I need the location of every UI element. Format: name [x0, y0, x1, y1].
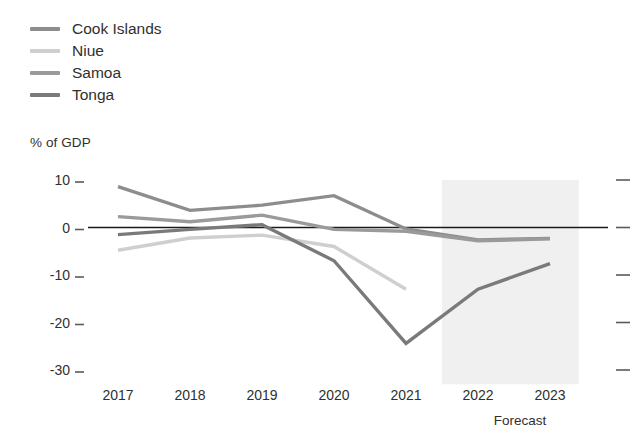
forecast-axis-label: Forecast: [494, 413, 547, 428]
y-tick-label: 10: [54, 172, 70, 188]
y-tick-label: -30: [50, 362, 70, 378]
x-tick-label: 2017: [102, 387, 133, 403]
x-axis-labels: 2017201820192020202120222023: [102, 387, 565, 403]
series-line-niue: [118, 235, 406, 289]
y-axis-ticks: 100-10-20-30: [50, 172, 84, 378]
y-tick-label: -10: [50, 267, 70, 283]
x-tick-label: 2022: [462, 387, 493, 403]
x-tick-label: 2023: [534, 387, 565, 403]
plot-area: 100-10-20-30 201720182019202020212022202…: [0, 0, 640, 445]
y-axis-ticks-right: [616, 180, 630, 370]
chart-container: Cook Islands Niue Samoa Tonga % of GDP 1…: [0, 0, 640, 445]
x-tick-label: 2019: [246, 387, 277, 403]
x-tick-label: 2018: [174, 387, 205, 403]
y-tick-label: 0: [62, 220, 70, 236]
x-tick-label: 2021: [390, 387, 421, 403]
x-tick-label: 2020: [318, 387, 349, 403]
forecast-label: Forecast: [494, 413, 547, 428]
forecast-shaded-band: [442, 180, 579, 384]
y-tick-label: -20: [50, 315, 70, 331]
